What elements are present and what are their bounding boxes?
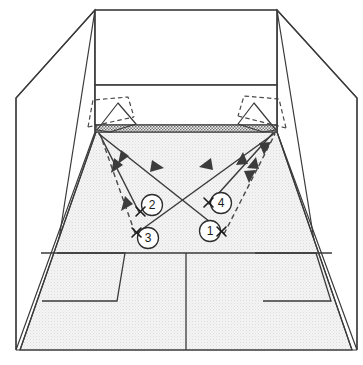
front-wall-lower [95, 85, 277, 125]
position-label-1: 1 [207, 224, 214, 238]
position-label-2: 2 [149, 198, 156, 212]
position-label-4: 4 [218, 196, 225, 210]
squash-court-diagram: 1 2 3 4 [0, 0, 363, 365]
position-label-3: 3 [145, 231, 152, 245]
front-wall-upper [95, 10, 277, 85]
